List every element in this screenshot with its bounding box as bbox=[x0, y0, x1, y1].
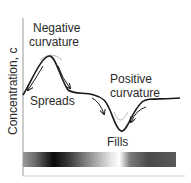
negative-curvature-label-line1: Negative bbox=[33, 22, 80, 35]
positive-curvature-label-line2: curvature bbox=[110, 87, 160, 100]
negative-curvature-label-line2: curvature bbox=[29, 36, 79, 49]
spread-arrow-right bbox=[58, 66, 70, 88]
positive-curvature-label-line1: Positive bbox=[110, 73, 152, 86]
fill-arrow-left bbox=[92, 98, 104, 114]
spreads-label: Spreads bbox=[30, 95, 75, 108]
concentration-gradient-bar bbox=[23, 152, 176, 167]
previous-trough-curve bbox=[114, 112, 128, 120]
spread-arrow-left bbox=[28, 66, 43, 90]
diffusion-curvature-diagram bbox=[0, 0, 191, 183]
fills-label: Fills bbox=[107, 136, 128, 149]
y-axis-label: Concentration, c bbox=[6, 48, 20, 135]
